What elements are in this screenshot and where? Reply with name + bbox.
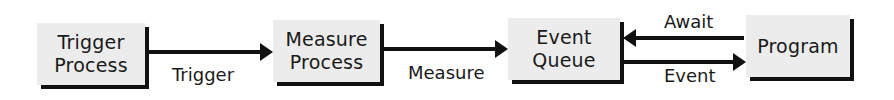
- node-label: Process: [54, 54, 127, 77]
- edge-label-event: Event: [664, 66, 716, 86]
- edge-label-trigger: Trigger: [172, 65, 234, 85]
- arrowhead-icon: [260, 43, 273, 61]
- arrowhead-icon: [733, 53, 746, 71]
- edge-measure: [384, 40, 508, 58]
- node-event-queue: Event Queue: [508, 18, 620, 80]
- edge-label-measure: Measure: [408, 63, 485, 83]
- arrowhead-icon: [495, 40, 508, 58]
- node-label: Process: [290, 51, 363, 74]
- node-label: Program: [757, 35, 839, 58]
- node-program: Program: [746, 15, 850, 77]
- edge-trigger: [149, 43, 273, 61]
- node-label: Measure: [285, 28, 367, 51]
- node-label: Trigger: [58, 31, 125, 54]
- node-trigger-process: Trigger Process: [37, 23, 145, 85]
- edge-label-await: Await: [664, 12, 713, 32]
- node-measure-process: Measure Process: [273, 20, 380, 82]
- node-label: Event: [536, 26, 591, 49]
- arrowhead-icon: [623, 29, 636, 47]
- node-label: Queue: [532, 49, 595, 72]
